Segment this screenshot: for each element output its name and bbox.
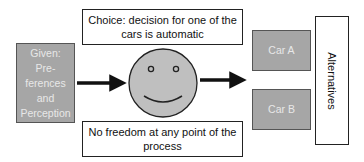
given-line: Given: Pre-	[19, 46, 72, 76]
choice-line: cars is automatic	[88, 27, 237, 41]
smiley-face-icon	[129, 49, 197, 117]
no-freedom-box: No freedom at any point of the process	[82, 121, 243, 157]
alternatives-label: Alternatives	[325, 52, 339, 109]
car-b-label: Car B	[268, 102, 295, 117]
alternatives-box: Alternatives	[315, 16, 349, 145]
constraint-line: process	[89, 139, 237, 153]
given-line: ferences	[19, 76, 72, 91]
choice-line: Choice: decision for one of the	[88, 13, 237, 27]
given-preferences-box: Given: Pre- ferences and Perception	[16, 43, 75, 123]
given-line: and	[19, 91, 72, 106]
car-a-label: Car A	[268, 43, 294, 58]
car-a-box: Car A	[252, 30, 311, 71]
constraint-line: No freedom at any point of the	[89, 125, 237, 139]
given-line: Perception	[19, 106, 72, 121]
choice-box: Choice: decision for one of the cars is …	[82, 9, 243, 45]
car-b-box: Car B	[252, 89, 311, 130]
